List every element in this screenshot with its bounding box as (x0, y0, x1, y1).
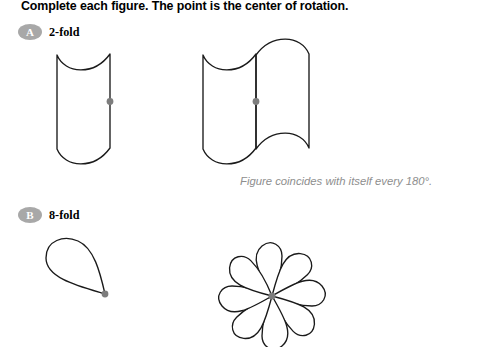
part-a-caption: Figure coincides with itself every 180°. (240, 175, 432, 187)
figure-b-given (38, 228, 128, 308)
figure-b-completed (196, 222, 356, 347)
eight-petal-rosette (219, 243, 326, 347)
part-b-header: B 8-fold (18, 207, 79, 223)
center-of-rotation-dot-a-given (107, 98, 114, 105)
center-of-rotation-dot-a-completed (253, 98, 260, 105)
flag-right-half-outline (256, 39, 309, 149)
figure-a-completed (190, 28, 340, 168)
page-title: Complete each figure. The point is the c… (21, 0, 348, 13)
flag-left-half-outline (203, 54, 256, 164)
teardrop-petal-outline (46, 239, 105, 294)
half-flag-outline (57, 54, 110, 164)
part-badge-a: A (18, 24, 42, 40)
figure-a-given (40, 38, 140, 168)
part-badge-b: B (18, 207, 42, 223)
part-b-label: 8-fold (49, 208, 79, 223)
center-of-rotation-dot-b-given (102, 291, 109, 298)
center-of-rotation-dot-b-completed (268, 292, 275, 299)
